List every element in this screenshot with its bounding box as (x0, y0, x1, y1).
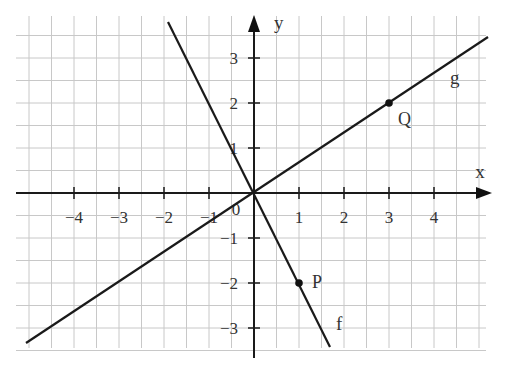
x-tick-label: 2 (340, 208, 349, 227)
y-tick-label: 2 (230, 94, 239, 113)
y-tick-label: −2 (220, 274, 238, 293)
point-p (295, 279, 303, 287)
y-axis-arrow-icon (248, 15, 260, 32)
x-axis-arrow-icon (476, 187, 492, 199)
y-axis-label: y (274, 12, 284, 33)
coordinate-plot: −4 −3 −2 −1 1 2 3 4 3 2 1 −1 −2 −3 0 y x… (0, 0, 507, 376)
x-tick-label: −4 (65, 208, 84, 227)
x-tick-label: 4 (430, 208, 439, 227)
x-tick-label: −2 (155, 208, 173, 227)
line-g-label: g (450, 67, 460, 88)
y-tick-label: −3 (220, 319, 238, 338)
y-tick-label: −1 (220, 229, 238, 248)
point-p-label: P (312, 272, 322, 292)
point-q-label: Q (398, 109, 411, 129)
line-f-label: f (336, 313, 343, 334)
x-tick-label: 1 (295, 208, 304, 227)
y-tick-label: 3 (230, 49, 239, 68)
x-axis-label: x (475, 161, 485, 182)
line-f (168, 22, 330, 347)
x-tick-label: −3 (110, 208, 128, 227)
line-g (26, 37, 488, 343)
grid (16, 16, 486, 351)
point-q (385, 99, 393, 107)
x-tick-label: 3 (385, 208, 394, 227)
